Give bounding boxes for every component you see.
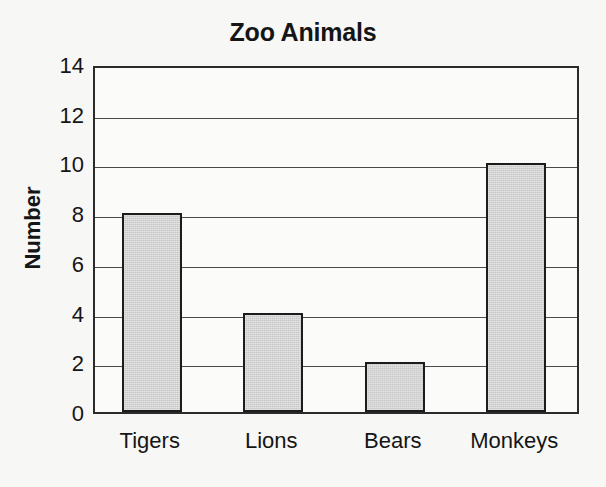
- x-axis-tick-label: Lions: [211, 428, 333, 454]
- x-axis-tick-label: Monkeys: [454, 428, 576, 454]
- y-axis-tick-label: 12: [22, 105, 84, 127]
- bar: [243, 313, 303, 412]
- bar-chart: Zoo Animals Number 02468101214 TigersLio…: [0, 0, 606, 487]
- y-axis-tick-label: 14: [22, 55, 84, 77]
- x-axis-tick-label: Bears: [332, 428, 454, 454]
- bar: [122, 213, 182, 412]
- y-axis-title: Number: [20, 173, 46, 283]
- y-axis-tick-label: 0: [22, 403, 84, 425]
- plot-area: [93, 66, 579, 414]
- bar: [365, 362, 425, 412]
- y-axis-tick-label: 2: [22, 353, 84, 375]
- chart-title: Zoo Animals: [0, 17, 606, 47]
- x-axis-tick-label: Tigers: [89, 428, 211, 454]
- y-axis-tick-label: 4: [22, 304, 84, 326]
- gridline: [95, 118, 577, 119]
- bar: [486, 163, 546, 412]
